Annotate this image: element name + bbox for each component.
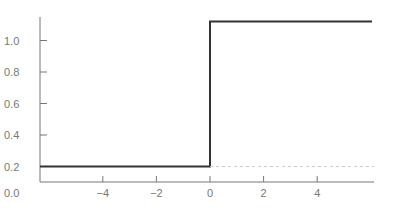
y-tick-label: 0.6 — [4, 98, 19, 110]
x-tick-label: 2 — [261, 187, 267, 199]
x-tick-label: −4 — [97, 187, 110, 199]
plot-area — [40, 22, 374, 167]
y-axis: 0.00.20.40.60.81.0 — [4, 17, 47, 199]
y-tick-label: 0.4 — [4, 129, 19, 141]
y-tick-label: 0.8 — [4, 66, 19, 78]
step-function-chart: 0.00.20.40.60.81.0 −4−2024 — [0, 0, 396, 215]
y-tick-label: 0.2 — [4, 161, 19, 173]
x-axis: −4−2024 — [40, 176, 374, 199]
x-tick-label: 4 — [314, 187, 320, 199]
x-tick-label: −2 — [150, 187, 163, 199]
x-tick-label: 0 — [207, 187, 213, 199]
y-tick-label: 1.0 — [4, 35, 19, 47]
y-tick-label: 0.0 — [4, 187, 19, 199]
step-line — [40, 22, 372, 167]
